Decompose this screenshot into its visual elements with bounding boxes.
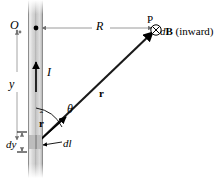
point-P-label: P (147, 14, 153, 25)
dy-dimension-bracket (17, 132, 27, 152)
r-vector-arrow (37, 32, 153, 143)
element-dl-label: dl (63, 138, 72, 149)
magnetic-field-dB-label: dB (inward) (160, 26, 213, 37)
dl-leader-line (43, 142, 62, 145)
dB-B-symbol: B (166, 25, 173, 37)
element-dy-label: dy (6, 139, 16, 150)
dB-inward-text: (inward) (176, 25, 214, 37)
unit-vector-r-hat-label: ˆ r (39, 118, 44, 129)
dl-current-element (29, 135, 42, 149)
angle-theta-label: θ (67, 103, 73, 115)
current-I-label: I (47, 66, 51, 78)
height-y-label: y (9, 78, 14, 90)
hat-accent-icon: ˆ (39, 111, 44, 121)
origin-label: O (10, 19, 19, 31)
height-y-line (16, 30, 18, 140)
physics-diagram-biot-savart: O R P dB (inward) y I θ r ˆ r dy dl (0, 0, 218, 178)
distance-R-label: R (96, 20, 103, 32)
r-vector-label: r (99, 88, 104, 99)
